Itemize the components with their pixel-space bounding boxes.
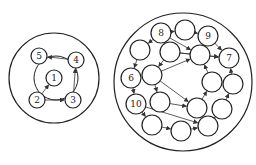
right-node <box>202 72 222 92</box>
right-edge <box>204 65 207 73</box>
right-node <box>187 98 207 118</box>
right-node-label: 8 <box>158 28 164 38</box>
right-node <box>190 45 210 65</box>
right-node <box>198 116 218 136</box>
right-edge <box>155 85 157 92</box>
left-node-label: 5 <box>36 51 42 61</box>
right-node <box>142 65 162 85</box>
right-edge <box>142 112 145 116</box>
right-edge <box>162 127 170 129</box>
left-node-label: 2 <box>34 95 40 105</box>
right-edge <box>191 128 197 129</box>
right-edge <box>231 69 232 74</box>
right-node-label: 10 <box>130 99 142 109</box>
left-node-label: 3 <box>70 95 76 105</box>
right-node-label: 7 <box>226 53 232 63</box>
right-node <box>160 42 180 62</box>
left-edge <box>42 85 49 94</box>
right-node <box>142 115 162 135</box>
right-node <box>171 121 191 141</box>
right-node <box>223 74 243 94</box>
right-edge <box>170 104 186 107</box>
right-node <box>130 40 150 60</box>
right-edge <box>134 60 137 68</box>
right-edge <box>133 88 134 93</box>
left-node-label: 4 <box>73 55 79 65</box>
right-edge <box>149 39 154 43</box>
right-edge <box>202 92 207 100</box>
right-node-label: 9 <box>205 31 211 41</box>
right-edge <box>226 94 229 100</box>
right-node-label: 6 <box>128 73 134 83</box>
right-edge <box>159 60 164 66</box>
right-node <box>150 92 170 112</box>
diagram-canvas: 54123897610 <box>0 0 256 165</box>
right-node <box>175 20 195 40</box>
network-diagram: 54123897610 <box>0 0 256 165</box>
right-edge <box>215 43 222 50</box>
left-node-label: 1 <box>51 73 57 83</box>
right-node <box>212 99 232 119</box>
